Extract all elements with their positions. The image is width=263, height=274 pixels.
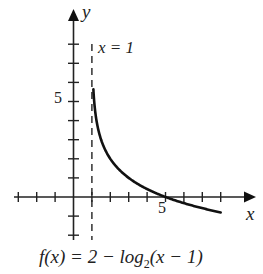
x-axis-arrow-icon xyxy=(244,192,256,203)
y-tick-label-5: 5 xyxy=(54,89,62,107)
caption-argument: (x − 1) xyxy=(150,246,203,267)
y-axis-label: y xyxy=(82,1,90,23)
x-axis-label: x xyxy=(246,203,254,225)
y-axis-arrow-icon xyxy=(68,9,79,21)
axis-ticks xyxy=(18,44,220,235)
asymptote-label: x = 1 xyxy=(98,38,134,58)
caption-main: f(x) = 2 − log xyxy=(39,246,144,267)
x-tick-label-5: 5 xyxy=(158,199,166,217)
function-caption: f(x) = 2 − log2(x − 1) xyxy=(39,246,203,272)
